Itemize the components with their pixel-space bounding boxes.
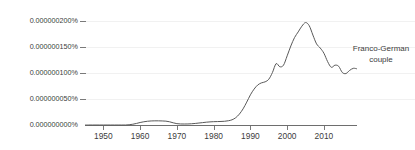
annotation-line-1: Franco-German	[350, 44, 412, 55]
y-axis-ticks	[80, 22, 86, 100]
y-axis-tick-label: 0.000000050%	[0, 94, 78, 103]
series-annotation-label: Franco-German couple	[350, 44, 412, 65]
y-axis-tick-label: 0.000000100%	[0, 68, 78, 77]
y-axis-tick-label: 0.000000200%	[0, 16, 78, 25]
y-axis-tick-label: 0.000000150%	[0, 42, 78, 51]
ngram-chart: 0.000000000%0.000000050%0.000000100%0.00…	[0, 0, 415, 150]
x-axis-tick-label: 2000	[267, 131, 307, 141]
x-axis-tick-label: 1960	[120, 131, 160, 141]
annotation-line-2: couple	[350, 55, 412, 66]
x-axis-tick-label: 1950	[83, 131, 123, 141]
x-axis-tick-label: 1990	[230, 131, 270, 141]
y-axis-tick-label: 0.000000000%	[0, 120, 78, 129]
x-axis-tick-label: 1980	[194, 131, 234, 141]
x-axis-tick-label: 2010	[304, 131, 344, 141]
x-axis-tick-label: 1970	[157, 131, 197, 141]
